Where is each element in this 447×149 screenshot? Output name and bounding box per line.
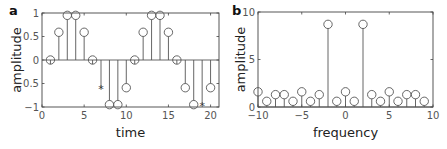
x-tick-label: 20 bbox=[204, 110, 217, 121]
stem-point bbox=[280, 90, 288, 107]
circle-marker bbox=[420, 97, 428, 105]
circle-marker bbox=[63, 11, 71, 19]
circle-marker bbox=[206, 84, 214, 92]
stem-point bbox=[376, 97, 384, 107]
x-tick-label: 10 bbox=[427, 110, 440, 121]
circle-marker bbox=[333, 97, 341, 105]
circle-marker bbox=[147, 11, 155, 19]
y-tick-label: 0 bbox=[249, 102, 255, 113]
panel-a-time-domain: a 05101520−1−0.500.51**timeamplitude bbox=[0, 0, 225, 149]
x-tick-label: 10 bbox=[120, 110, 133, 121]
circle-marker bbox=[139, 28, 147, 36]
stem-point bbox=[105, 60, 113, 109]
stem-point bbox=[411, 90, 419, 107]
panel-label-b: b bbox=[232, 3, 241, 18]
stem-point bbox=[72, 11, 80, 60]
circle-marker bbox=[164, 28, 172, 36]
panel-b-frequency-domain: b −10−505100510frequencyamplitude bbox=[225, 0, 447, 149]
circle-marker bbox=[122, 84, 130, 92]
circle-marker bbox=[263, 97, 271, 105]
stem-point bbox=[164, 28, 172, 60]
stem-point bbox=[333, 97, 341, 107]
circle-marker bbox=[359, 20, 367, 28]
circle-marker bbox=[385, 88, 393, 96]
stem-point bbox=[394, 97, 402, 107]
x-tick-label: 5 bbox=[81, 110, 87, 121]
x-axis-label: frequency bbox=[313, 125, 379, 140]
circle-marker bbox=[190, 100, 198, 108]
stem-point bbox=[181, 60, 189, 92]
y-tick-label: 10 bbox=[242, 7, 255, 18]
stem-point bbox=[80, 28, 88, 60]
circle-marker bbox=[280, 90, 288, 98]
circle-marker bbox=[341, 88, 349, 96]
asterisk-marker: * bbox=[199, 100, 205, 113]
circle-marker bbox=[368, 90, 376, 98]
circle-marker bbox=[315, 90, 323, 98]
stem-point: * bbox=[98, 60, 104, 96]
circle-marker bbox=[114, 100, 122, 108]
stem-chart-frequency: −10−505100510frequencyamplitude bbox=[225, 0, 447, 149]
x-tick-label: 15 bbox=[162, 110, 175, 121]
circle-marker bbox=[80, 28, 88, 36]
stem-point bbox=[289, 97, 297, 107]
panel-label-a: a bbox=[9, 3, 18, 18]
circle-marker bbox=[289, 97, 297, 105]
circle-marker bbox=[394, 97, 402, 105]
circle-marker bbox=[72, 11, 80, 19]
circle-marker bbox=[105, 100, 113, 108]
y-tick-label: 0.5 bbox=[23, 31, 39, 42]
x-tick-label: 5 bbox=[386, 110, 392, 121]
y-tick-label: 1 bbox=[33, 8, 39, 19]
x-axis-label: time bbox=[116, 125, 145, 140]
y-tick-label: 0 bbox=[33, 55, 39, 66]
stem-point bbox=[190, 60, 198, 109]
plot-frame bbox=[258, 12, 433, 107]
circle-marker bbox=[376, 97, 384, 105]
circle-marker bbox=[55, 28, 63, 36]
stem-point bbox=[147, 11, 155, 60]
stem-point bbox=[315, 90, 323, 107]
circle-marker bbox=[324, 20, 332, 28]
y-tick-label: 5 bbox=[249, 54, 255, 65]
stem-point bbox=[385, 88, 393, 107]
x-tick-label: 0 bbox=[39, 110, 45, 121]
circle-marker bbox=[181, 84, 189, 92]
stem-point bbox=[114, 60, 122, 109]
stem-point bbox=[139, 28, 147, 60]
stem-point bbox=[271, 90, 279, 107]
stem-point bbox=[122, 60, 130, 92]
stem-point bbox=[306, 97, 314, 107]
y-axis-label: amplitude bbox=[9, 27, 24, 93]
stem-point bbox=[263, 97, 271, 107]
y-tick-label: −1 bbox=[24, 102, 39, 113]
circle-marker bbox=[403, 90, 411, 98]
circle-marker bbox=[156, 11, 164, 19]
x-tick-label: 0 bbox=[342, 110, 348, 121]
stem-point bbox=[206, 60, 214, 92]
stem-chart-time: 05101520−1−0.500.51**timeamplitude bbox=[0, 0, 225, 149]
stem-point bbox=[403, 90, 411, 107]
circle-marker bbox=[350, 97, 358, 105]
stem-point bbox=[341, 88, 349, 107]
stem-point bbox=[55, 28, 63, 60]
asterisk-marker: * bbox=[98, 83, 104, 96]
stem-point bbox=[420, 97, 428, 107]
stem-point bbox=[324, 20, 332, 107]
circle-marker bbox=[298, 88, 306, 96]
stem-point: * bbox=[199, 60, 205, 113]
stem-point bbox=[368, 90, 376, 107]
stem-point bbox=[156, 11, 164, 60]
circle-marker bbox=[271, 90, 279, 98]
stem-point bbox=[359, 20, 367, 107]
stem-point bbox=[298, 88, 306, 107]
x-tick-label: −5 bbox=[294, 110, 309, 121]
y-axis-label: amplitude bbox=[233, 27, 248, 93]
stem-point bbox=[350, 97, 358, 107]
stem-point bbox=[63, 11, 71, 60]
circle-marker bbox=[306, 97, 314, 105]
circle-marker bbox=[411, 90, 419, 98]
